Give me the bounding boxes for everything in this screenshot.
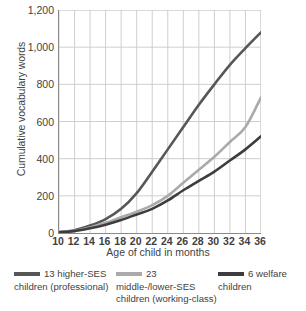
- y-axis-tick-600: 600: [8, 117, 54, 127]
- chart-legend: 13 higher-SES children (professional) 23…: [0, 268, 306, 311]
- y-axis-tick-1000: 1,000: [8, 42, 54, 52]
- series-lines-svg: [59, 10, 261, 233]
- y-axis-tick-labels: 02004006008001,0001,200: [6, 0, 54, 243]
- y-axis-tick-200: 200: [8, 191, 54, 201]
- series-line-middle-lower-ses: [59, 97, 261, 232]
- legend-swatch-higher-ses: [14, 272, 40, 275]
- legend-item-welfare: 6 welfare children: [218, 268, 306, 293]
- legend-swatch-welfare: [218, 272, 244, 275]
- legend-swatch-middle-lower-ses: [116, 272, 142, 275]
- y-axis-tick-1200: 1,200: [8, 5, 54, 15]
- plot-canvas: [58, 10, 261, 234]
- legend-item-middle-lower-ses: 23 middle-/lower-SES children (working-c…: [116, 268, 218, 306]
- legend-item-higher-ses: 13 higher-SES children (professional): [14, 268, 116, 293]
- y-axis-tick-800: 800: [8, 79, 54, 89]
- x-axis-label: Age of child in months: [40, 246, 276, 258]
- chart-figure: Cumulative vocabulary words 020040060080…: [0, 0, 306, 311]
- chart-plot-region: Cumulative vocabulary words 020040060080…: [0, 0, 306, 262]
- y-axis-tick-400: 400: [8, 154, 54, 164]
- series-line-welfare: [59, 136, 261, 232]
